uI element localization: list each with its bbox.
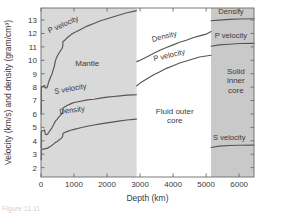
y-tick-label: 2 <box>33 164 38 173</box>
density-inner-core-label: Density <box>218 7 244 16</box>
y-tick-label: 4 <box>33 137 38 146</box>
y-tick-label: 8 <box>33 83 38 92</box>
y-tick-label: 9 <box>33 70 38 79</box>
x-axis-tick-labels: 0100020003000400050006000 <box>39 180 249 189</box>
x-axis-title: Depth (km) <box>126 193 168 203</box>
s-velocity-inner-core-label: S velocity <box>213 133 246 142</box>
y-tick-label: 6 <box>33 110 38 119</box>
y-tick-label: 7 <box>33 96 38 105</box>
solid-inner-core-label: core <box>228 86 244 95</box>
x-tick-label: 6000 <box>230 180 248 189</box>
fluid-outer-core-label: Fluid outer <box>156 107 194 116</box>
x-tick-label: 3000 <box>131 180 149 189</box>
x-tick-label: 0 <box>39 180 44 189</box>
seismic-profile-figure: 0100020003000400050006000 23456789101112… <box>0 0 293 213</box>
mantle-region-label: Mantle <box>75 59 100 68</box>
y-axis-tick-labels: 2345678910111213 <box>28 16 37 173</box>
y-axis-title: Velocity (km/s) and density (gram/cm³) <box>3 20 13 165</box>
x-tick-label: 5000 <box>197 180 215 189</box>
y-tick-label: 3 <box>33 150 38 159</box>
solid-inner-core-label: Solid <box>227 67 245 76</box>
fluid-outer-core-label: core <box>167 116 183 125</box>
x-tick-label: 1000 <box>65 180 83 189</box>
y-tick-label: 13 <box>28 16 37 25</box>
y-tick-label: 10 <box>28 56 37 65</box>
x-tick-label: 4000 <box>164 180 182 189</box>
y-tick-label: 5 <box>33 123 38 132</box>
x-tick-label: 2000 <box>98 180 116 189</box>
p-velocity-inner-core-label: P velocity <box>215 31 248 40</box>
solid-inner-core-label: inner <box>227 76 245 85</box>
y-tick-label: 11 <box>29 43 38 52</box>
velocity-density-chart: 0100020003000400050006000 23456789101112… <box>0 0 293 213</box>
figure-caption-fragment: Figure 11.11 <box>2 205 122 213</box>
y-tick-label: 12 <box>28 29 37 38</box>
